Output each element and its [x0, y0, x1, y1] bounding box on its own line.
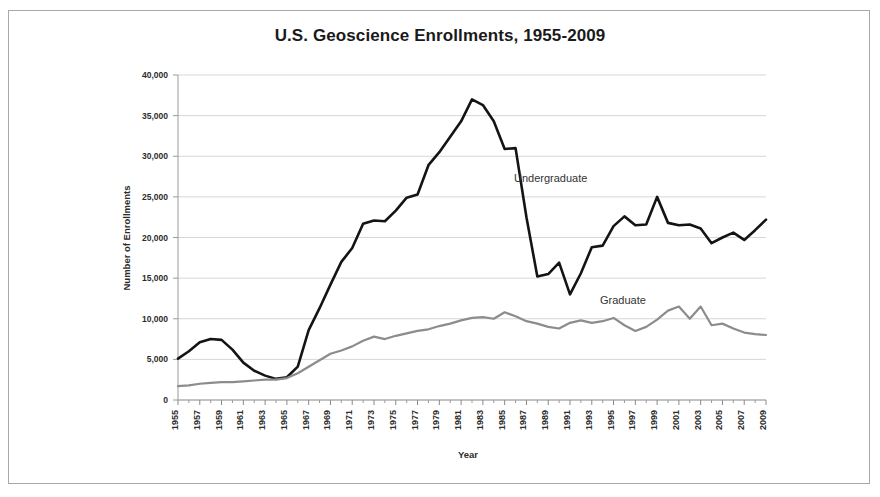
x-tick-label-1965: 1965: [279, 410, 289, 430]
x-tick-label-1997: 1997: [627, 410, 637, 430]
x-tick-label-2003: 2003: [693, 410, 703, 430]
y-axis-title: Number of Enrollments: [121, 185, 132, 290]
x-tick-label-1977: 1977: [410, 410, 420, 430]
data-series-group: [178, 99, 766, 386]
x-tick-label-1999: 1999: [649, 410, 659, 430]
y-tick-label-40000: 40,000: [142, 70, 168, 80]
x-tick-label-1973: 1973: [366, 410, 376, 430]
chart-page: U.S. Geoscience Enrollments, 1955-2009 0…: [0, 0, 880, 497]
x-tick-label-1963: 1963: [257, 410, 267, 430]
x-tick-label-1981: 1981: [453, 410, 463, 430]
x-tick-label-1979: 1979: [431, 410, 441, 430]
x-axis-group: 1955195719591961196319651967196919711973…: [170, 400, 768, 430]
x-tick-label-1983: 1983: [475, 410, 485, 430]
y-tick-label-25000: 25,000: [142, 192, 168, 202]
x-tick-label-1955: 1955: [170, 410, 180, 430]
x-tick-label-1995: 1995: [606, 410, 616, 430]
x-tick-label-1961: 1961: [235, 410, 245, 430]
x-tick-label-1967: 1967: [301, 410, 311, 430]
x-tick-label-2001: 2001: [671, 410, 681, 430]
annotation-undergraduate: Undergraduate: [514, 172, 587, 184]
x-tick-label-1975: 1975: [388, 410, 398, 430]
x-tick-label-1969: 1969: [322, 410, 332, 430]
x-tick-label-1959: 1959: [214, 410, 224, 430]
y-tick-label-0: 0: [163, 395, 168, 405]
annotation-graduate: Graduate: [600, 294, 646, 306]
x-tick-label-1989: 1989: [540, 410, 550, 430]
y-tick-label-30000: 30,000: [142, 151, 168, 161]
line-chart-plot: 05,00010,00015,00020,00025,00030,00035,0…: [0, 0, 880, 497]
x-tick-label-1987: 1987: [518, 410, 528, 430]
x-axis-title: Year: [458, 449, 478, 460]
series-annotations-group: UndergraduateGraduate: [514, 172, 646, 306]
y-axis-group: 05,00010,00015,00020,00025,00030,00035,0…: [142, 70, 178, 405]
x-tick-label-1993: 1993: [584, 410, 594, 430]
y-tick-label-35000: 35,000: [142, 111, 168, 121]
y-tick-label-15000: 15,000: [142, 273, 168, 283]
x-tick-label-2009: 2009: [758, 410, 768, 430]
x-tick-label-1971: 1971: [344, 410, 354, 430]
x-tick-label-1985: 1985: [497, 410, 507, 430]
gridlines-group: [178, 75, 766, 400]
y-tick-label-10000: 10,000: [142, 314, 168, 324]
x-tick-label-1991: 1991: [562, 410, 572, 430]
x-tick-label-2007: 2007: [736, 410, 746, 430]
x-tick-label-2005: 2005: [714, 410, 724, 430]
x-tick-label-1957: 1957: [192, 410, 202, 430]
y-tick-label-5000: 5,000: [147, 354, 169, 364]
series-line-undergraduate: [178, 99, 766, 379]
y-tick-label-20000: 20,000: [142, 233, 168, 243]
